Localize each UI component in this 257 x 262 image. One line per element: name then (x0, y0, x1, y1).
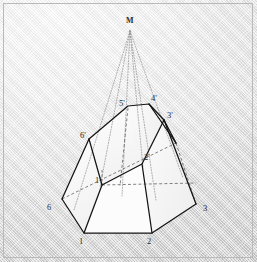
label-2-prime: 2' (144, 153, 150, 162)
label-6: 6 (47, 203, 51, 212)
label-1-prime: 1' (95, 176, 101, 185)
label-5-prime: 5' (119, 99, 125, 108)
solid-faces (62, 104, 196, 233)
geometry-diagram (0, 0, 257, 262)
label-3: 3 (203, 204, 207, 213)
label-2: 2 (147, 237, 151, 246)
label-M: M (126, 17, 134, 25)
label-4-prime: 4' (151, 94, 157, 103)
label-6-prime: 6' (80, 131, 86, 140)
figure-canvas: M 5' 4' 3' 6' 2' 1' 6 3 1 2 (0, 0, 257, 262)
label-3-prime: 3' (167, 111, 173, 120)
label-1: 1 (79, 237, 83, 246)
